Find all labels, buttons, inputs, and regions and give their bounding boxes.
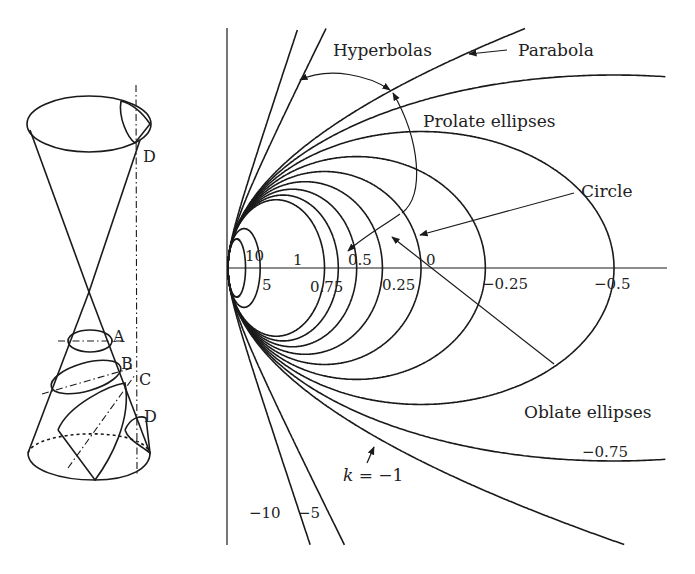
k-value-label: 10 — [245, 247, 264, 265]
oblate-arrow — [392, 237, 554, 364]
hyperbolas-arrow — [300, 73, 390, 90]
callout-parabola: Parabola — [518, 40, 594, 60]
k-value-label: −10 — [249, 504, 281, 522]
conic-curve — [228, 29, 624, 545]
prolate-arrow-lower — [348, 214, 400, 251]
k-value-label: −0.25 — [482, 275, 528, 293]
k-value-label: −0.5 — [594, 275, 630, 293]
callout-hyperbolas: Hyperbolas — [333, 40, 432, 60]
callout-k-minus-1: k = −1 — [343, 465, 403, 485]
conic-sections-diagram: ABCDD 10510.750.50.250−0.25−0.5−0.75−10−… — [0, 0, 695, 574]
cone-label-A: A — [112, 327, 125, 346]
callout-oblate-ellipses: Oblate ellipses — [524, 402, 651, 422]
k-value-label: 1 — [293, 251, 303, 269]
prolate-arrow-upper — [393, 93, 417, 213]
k-value-label: 0.75 — [310, 278, 343, 296]
k-value-label: 5 — [262, 276, 272, 294]
double-cone — [27, 85, 151, 480]
callout-prolate-ellipses: Prolate ellipses — [423, 111, 555, 131]
cone-label-C: C — [139, 370, 151, 389]
callout-circle: Circle — [581, 181, 633, 201]
k-value-label: 0.25 — [382, 276, 415, 294]
k-value-label: 0 — [426, 251, 436, 269]
k-minus-1-arrow — [367, 447, 374, 463]
circle-arrow — [420, 193, 574, 235]
cone-label-D-top: D — [143, 147, 156, 166]
cone-label-D-bottom: D — [144, 407, 157, 426]
k-value-label: 0.5 — [348, 251, 372, 269]
k-value-label: −5 — [298, 504, 320, 522]
cone-label-B: B — [121, 354, 133, 373]
k-value-label: −0.75 — [582, 443, 628, 461]
